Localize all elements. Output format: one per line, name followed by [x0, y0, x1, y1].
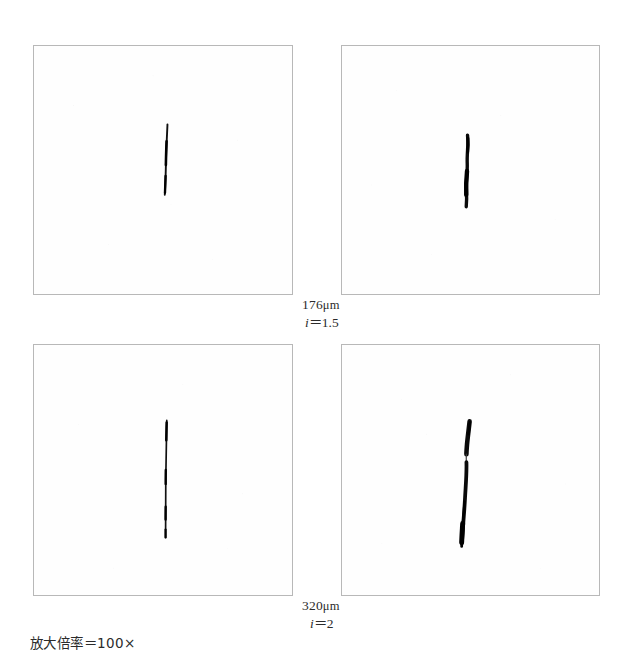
paper-speckle-top-left — [73, 75, 238, 259]
crack-image-top-left — [34, 46, 292, 294]
micrograph-panel-top-left — [33, 45, 293, 295]
crack-thickening-top-right — [466, 171, 467, 195]
paper-speckle-bottom-left — [78, 384, 243, 568]
crack-thickening-top-left — [166, 141, 167, 165]
scale-label-row-2: 320μm — [302, 597, 340, 615]
index-value: ＝2 — [314, 616, 334, 631]
crack-image-top-right — [342, 46, 599, 294]
micrograph-panel-bottom-right — [341, 344, 600, 596]
index-label-row-2: i＝2 — [302, 615, 340, 633]
scale-number: 320 — [302, 598, 323, 613]
scale-unit: μm — [323, 298, 340, 312]
scale-label-row-1: 176μm — [302, 296, 340, 314]
micrograph-panel-top-right — [341, 45, 600, 295]
scale-number: 176 — [302, 297, 323, 312]
figure-caption: 放大倍率＝100× — [30, 632, 136, 652]
row-label-group-1: 176μm i＝1.5 — [302, 296, 340, 332]
crack-midthin-bottom-right — [463, 502, 465, 524]
row-label-group-2: 320μm i＝2 — [302, 597, 340, 633]
paper-speckle-top-right — [371, 90, 555, 254]
scale-unit: μm — [323, 599, 340, 613]
micrograph-panel-bottom-left — [33, 344, 293, 596]
crack-image-bottom-right — [342, 345, 599, 595]
paper-speckle-bottom-right — [381, 374, 565, 568]
crack-upper-tip-bottom-right — [469, 422, 470, 434]
crack-tip-top-left — [165, 176, 166, 193]
crack-image-bottom-left — [34, 345, 292, 595]
index-label-row-1: i＝1.5 — [302, 314, 340, 332]
crack-bottom-wedge-bottom-right — [462, 524, 463, 543]
index-value: ＝1.5 — [309, 315, 339, 330]
